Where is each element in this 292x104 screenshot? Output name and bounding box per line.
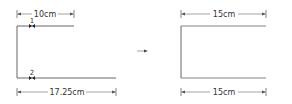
- marker-label: 1: [30, 17, 34, 25]
- left-top-dimension: 10cm: [17, 10, 74, 19]
- right-bottom-dimension: 15cm: [181, 88, 266, 97]
- marker-label: 2: [30, 69, 34, 77]
- arrowhead-icon: [181, 13, 185, 16]
- right-figure: 15cm 15cm: [181, 10, 266, 97]
- dimension-label: 15cm: [213, 10, 236, 19]
- arrowhead-icon: [70, 13, 74, 16]
- dimension-label: 10cm: [34, 10, 57, 19]
- dimension-label: 15cm: [213, 88, 236, 97]
- left-bottom-dimension: 17.25cm: [17, 88, 116, 97]
- right-top-dimension: 15cm: [181, 10, 266, 19]
- dimension-label: 17.25cm: [49, 88, 84, 97]
- right-arrow-icon: [137, 50, 148, 53]
- diagram-canvas: 10cm 1 2 17.25cm: [0, 0, 292, 104]
- arrowhead-icon: [17, 91, 21, 94]
- arrowhead-icon: [262, 91, 266, 94]
- arrowhead-icon: [181, 91, 185, 94]
- arrowhead-icon: [17, 13, 21, 16]
- arrowhead-icon: [262, 13, 266, 16]
- left-figure: 10cm 1 2 17.25cm: [17, 10, 116, 97]
- arrowhead-icon: [112, 91, 116, 94]
